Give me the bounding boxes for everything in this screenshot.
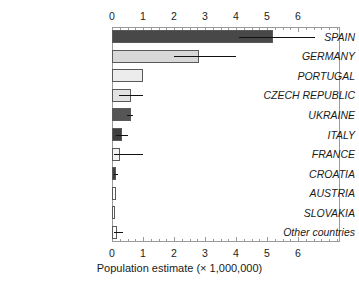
category-label: Other countries: [251, 226, 359, 238]
axis-tick: [205, 237, 206, 242]
bar: [112, 206, 115, 219]
axis-tick: [159, 239, 160, 242]
axis-tick: [252, 239, 253, 242]
axis-tick-label: 5: [257, 247, 277, 259]
axis-tick-label: 4: [226, 10, 246, 22]
axis-tick: [275, 27, 276, 30]
category-label: FRANCE: [251, 148, 359, 160]
axis-tick: [306, 27, 307, 30]
axis-tick-label: 2: [164, 10, 184, 22]
axis-tick-label: 5: [257, 10, 277, 22]
axis-tick: [306, 239, 307, 242]
axis-tick-label: 0: [102, 10, 122, 22]
axis-tick: [135, 239, 136, 242]
axis-tick: [337, 239, 338, 242]
axis-tick: [166, 239, 167, 242]
axis-tick-label: 6: [288, 247, 308, 259]
axis-tick: [321, 27, 322, 30]
x-axis-label: Population estimate (× 1,000,000): [0, 262, 359, 274]
axis-tick: [221, 239, 222, 242]
error-bar: [114, 232, 124, 233]
axis-tick: [259, 239, 260, 242]
axis-tick: [329, 239, 330, 242]
error-bar: [174, 56, 236, 57]
axis-tick: [290, 239, 291, 242]
error-bar: [127, 115, 133, 116]
category-label: CZECH REPUBLIC: [251, 89, 359, 101]
error-bar: [114, 154, 143, 155]
axis-tick: [337, 27, 338, 30]
error-bar: [239, 37, 315, 38]
axis-tick: [275, 239, 276, 242]
axis-tick: [213, 239, 214, 242]
axis-tick-label: 0: [102, 247, 122, 259]
axis-tick: [228, 239, 229, 242]
bar: [112, 69, 143, 82]
axis-tick: [174, 237, 175, 242]
category-label: CROATIA: [251, 168, 359, 180]
axis-tick-label: 1: [133, 247, 153, 259]
axis-tick: [321, 239, 322, 242]
bar: [112, 187, 116, 200]
bar-chart: 0123456 0123456 SPAINGERMANYPORTUGALCZEC…: [0, 0, 359, 285]
axis-tick-label: 4: [226, 247, 246, 259]
category-label: SLOVAKIA: [251, 207, 359, 219]
axis-tick: [190, 239, 191, 242]
error-bar: [119, 95, 143, 96]
axis-tick: [329, 27, 330, 30]
axis-tick: [182, 239, 183, 242]
axis-tick: [314, 239, 315, 242]
axis-tick: [128, 239, 129, 242]
error-bar: [116, 135, 128, 136]
error-bar: [114, 174, 119, 175]
axis-tick: [244, 239, 245, 242]
axis-tick-label: 6: [288, 10, 308, 22]
axis-tick: [197, 239, 198, 242]
category-label: UKRAINE: [251, 109, 359, 121]
axis-tick-label: 2: [164, 247, 184, 259]
axis-tick-label: 1: [133, 10, 153, 22]
category-label: GERMANY: [251, 50, 359, 62]
axis-tick-label: 3: [195, 247, 215, 259]
axis-tick: [283, 27, 284, 30]
axis-tick: [314, 27, 315, 30]
category-label: AUSTRIA: [251, 187, 359, 199]
category-label: PORTUGAL: [251, 70, 359, 82]
axis-tick: [120, 239, 121, 242]
axis-tick: [236, 237, 237, 242]
axis-tick: [283, 239, 284, 242]
axis-tick-label: 3: [195, 10, 215, 22]
axis-tick: [143, 237, 144, 242]
category-label: ITALY: [251, 129, 359, 141]
axis-tick: [151, 239, 152, 242]
axis-tick: [290, 27, 291, 30]
